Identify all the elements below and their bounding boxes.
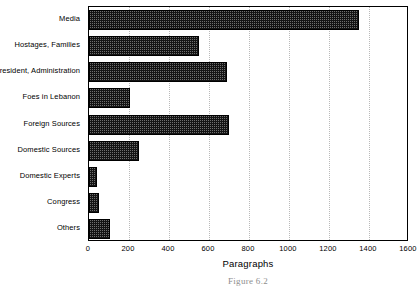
y-axis-label: Domestic Sources: [18, 140, 80, 160]
bar: [89, 62, 227, 82]
x-axis-tick-600: 600: [201, 243, 214, 254]
bar: [89, 193, 99, 213]
x-axis-tick-1200: 1200: [319, 243, 337, 254]
bar-chart-figure: MediaHostages, FamiliesPresident, Admini…: [0, 0, 419, 287]
bar: [89, 115, 229, 135]
y-axis-label: Hostages, Families: [14, 35, 80, 55]
bar: [89, 141, 139, 161]
bar-row: [89, 219, 408, 239]
bar: [89, 167, 97, 187]
bar: [89, 10, 359, 30]
bar-row: [89, 167, 408, 187]
y-axis-category-labels: MediaHostages, FamiliesPresident, Admini…: [0, 6, 84, 241]
x-axis-tick-labels: 02004006008001000120014001600: [0, 243, 419, 255]
plot-area: [88, 6, 408, 241]
x-axis-tick-200: 200: [121, 243, 134, 254]
bar-row: [89, 193, 408, 213]
x-axis-tick-1400: 1400: [359, 243, 377, 254]
bar-row: [89, 62, 408, 82]
bar-row: [89, 88, 408, 108]
bar-row: [89, 115, 408, 135]
x-axis-title: Paragraphs: [88, 258, 408, 269]
y-axis-label: Others: [57, 218, 80, 238]
bar-row: [89, 10, 408, 30]
x-axis-tick-1000: 1000: [279, 243, 297, 254]
bar: [89, 219, 110, 239]
y-axis-label: Foes in Lebanon: [23, 87, 80, 107]
y-axis-label: President, Administration: [0, 61, 80, 81]
y-axis-label: Media: [59, 9, 80, 29]
y-axis-label: Congress: [47, 192, 80, 212]
x-axis-tick-400: 400: [161, 243, 174, 254]
x-axis-tick-1600: 1600: [399, 243, 417, 254]
figure-caption: Figure 6.2: [88, 276, 408, 287]
x-axis-tick-800: 800: [241, 243, 254, 254]
bar-row: [89, 36, 408, 56]
y-axis-label: Domestic Experts: [20, 166, 80, 186]
bar-row: [89, 141, 408, 161]
x-axis-tick-0: 0: [86, 243, 90, 254]
y-axis-label: Foreign Sources: [23, 114, 80, 134]
bar: [89, 36, 199, 56]
bar: [89, 88, 130, 108]
